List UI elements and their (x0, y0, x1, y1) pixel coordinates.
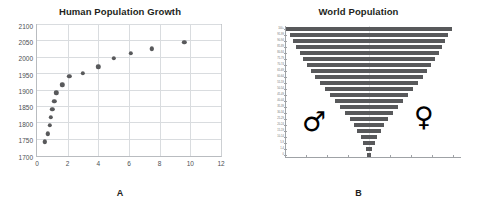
bar-female (369, 135, 377, 139)
bar-male (300, 51, 370, 55)
age-group-label: 70-74 (277, 64, 284, 67)
scatter-plot-area: 1700175018001850190019502000205021000246… (36, 24, 222, 157)
bar-male (303, 57, 369, 61)
bar-female (369, 153, 371, 157)
pyramid-row (285, 27, 453, 31)
bar-female (369, 87, 413, 91)
bar-male (325, 87, 369, 91)
age-group-label: 95-99 (277, 34, 284, 37)
panel-b: World Population 100+95-9990-9485-8980-8… (240, 0, 477, 204)
bar-female (369, 117, 388, 121)
bar-female (369, 99, 403, 103)
bar-male (290, 33, 369, 37)
bar-male (340, 105, 369, 109)
age-group-label: 80-84 (277, 52, 284, 55)
x-axis-tick-label: 6 (127, 160, 131, 167)
y-axis-tick-label: 1950 (19, 71, 33, 78)
y-axis-tick-label: 1750 (19, 137, 33, 144)
bar-male (361, 135, 369, 139)
bar-male (286, 27, 369, 31)
x-axis-tick-label: 10 (187, 160, 194, 167)
y-axis-tick-label: 1850 (19, 104, 33, 111)
bar-female (369, 81, 418, 85)
bar-male (307, 63, 369, 67)
pyramid-row (285, 141, 453, 145)
age-group-label: 25-29 (277, 118, 284, 121)
gridline-vertical (190, 25, 191, 156)
scatter-point (46, 131, 50, 135)
bar-female (369, 75, 423, 79)
panel-b-letter: B (240, 188, 477, 198)
x-axis-tick-label: 12 (217, 160, 224, 167)
age-group-label: 15-19 (277, 130, 284, 133)
bar-female (369, 129, 381, 133)
pyramid-row (285, 81, 453, 85)
scatter-point (54, 91, 58, 95)
age-group-label: 30-34 (277, 112, 284, 115)
scatter-point (81, 71, 85, 75)
age-group-label: 35-39 (277, 106, 284, 109)
bar-female (369, 111, 393, 115)
gridline-vertical (129, 25, 130, 156)
bar-female (369, 93, 408, 97)
pyramid-row (285, 75, 453, 79)
pyramid-row (285, 87, 453, 91)
scatter-point (50, 107, 54, 111)
bar-male (335, 99, 369, 103)
panel-a: Human Population Growth 1700175018001850… (0, 0, 240, 204)
age-group-label: 65-69 (277, 70, 284, 73)
female-symbol-icon: ♀ (414, 103, 434, 130)
scatter-point (67, 74, 71, 78)
pyramid-row (285, 153, 453, 157)
bar-male (293, 39, 369, 43)
x-axis-tick-label: 8 (158, 160, 162, 167)
bar-female (369, 69, 427, 73)
scatter-point (96, 64, 100, 68)
y-axis-tick-label: 2050 (19, 38, 33, 45)
gridline-vertical (68, 25, 69, 156)
panel-b-title: World Population (240, 6, 477, 17)
bar-male (350, 117, 369, 121)
bar-male (345, 111, 369, 115)
bar-male (320, 81, 369, 85)
panel-a-title: Human Population Growth (0, 6, 240, 17)
age-group-label: 1-4 (280, 148, 284, 151)
bar-female (369, 39, 445, 43)
bar-female (369, 63, 431, 67)
population-pyramid-area: 100+95-9990-9485-8980-8475-7970-7465-696… (285, 26, 453, 158)
age-group-label: 90-94 (277, 40, 284, 43)
bar-male (311, 69, 369, 73)
pyramid-row (285, 63, 453, 67)
y-axis-tick-label: 1900 (19, 88, 33, 95)
bar-female (369, 45, 442, 49)
bar-female (369, 141, 375, 145)
y-axis-tick-label: 1800 (19, 120, 33, 127)
scatter-point (182, 40, 186, 44)
scatter-point (47, 123, 51, 127)
scatter-point (49, 115, 53, 119)
age-group-label: 40-44 (277, 100, 284, 103)
bar-male (296, 45, 369, 49)
age-group-label: 45-49 (277, 94, 284, 97)
pyramid-row (285, 51, 453, 55)
y-axis-tick-label: 1700 (19, 153, 33, 160)
x-axis-tick (453, 155, 454, 158)
scatter-point (52, 99, 56, 103)
bar-female (369, 123, 384, 127)
age-group-label: 5-9 (280, 142, 284, 145)
age-group-label: 0 (283, 154, 284, 157)
age-group-label: 20-24 (277, 124, 284, 127)
bar-female (369, 57, 435, 61)
bar-female (369, 105, 398, 109)
bar-female (369, 147, 372, 151)
pyramid-row (285, 57, 453, 61)
age-group-label: 100+ (278, 28, 284, 31)
age-group-label: 10-14 (277, 136, 284, 139)
age-group-label: 60-64 (277, 76, 284, 79)
bar-male (330, 93, 369, 97)
scatter-point (128, 51, 132, 55)
figure-container: Human Population Growth 1700175018001850… (0, 0, 477, 204)
gridline-vertical (160, 25, 161, 156)
scatter-point (42, 140, 46, 144)
age-group-label: 50-54 (277, 88, 284, 91)
